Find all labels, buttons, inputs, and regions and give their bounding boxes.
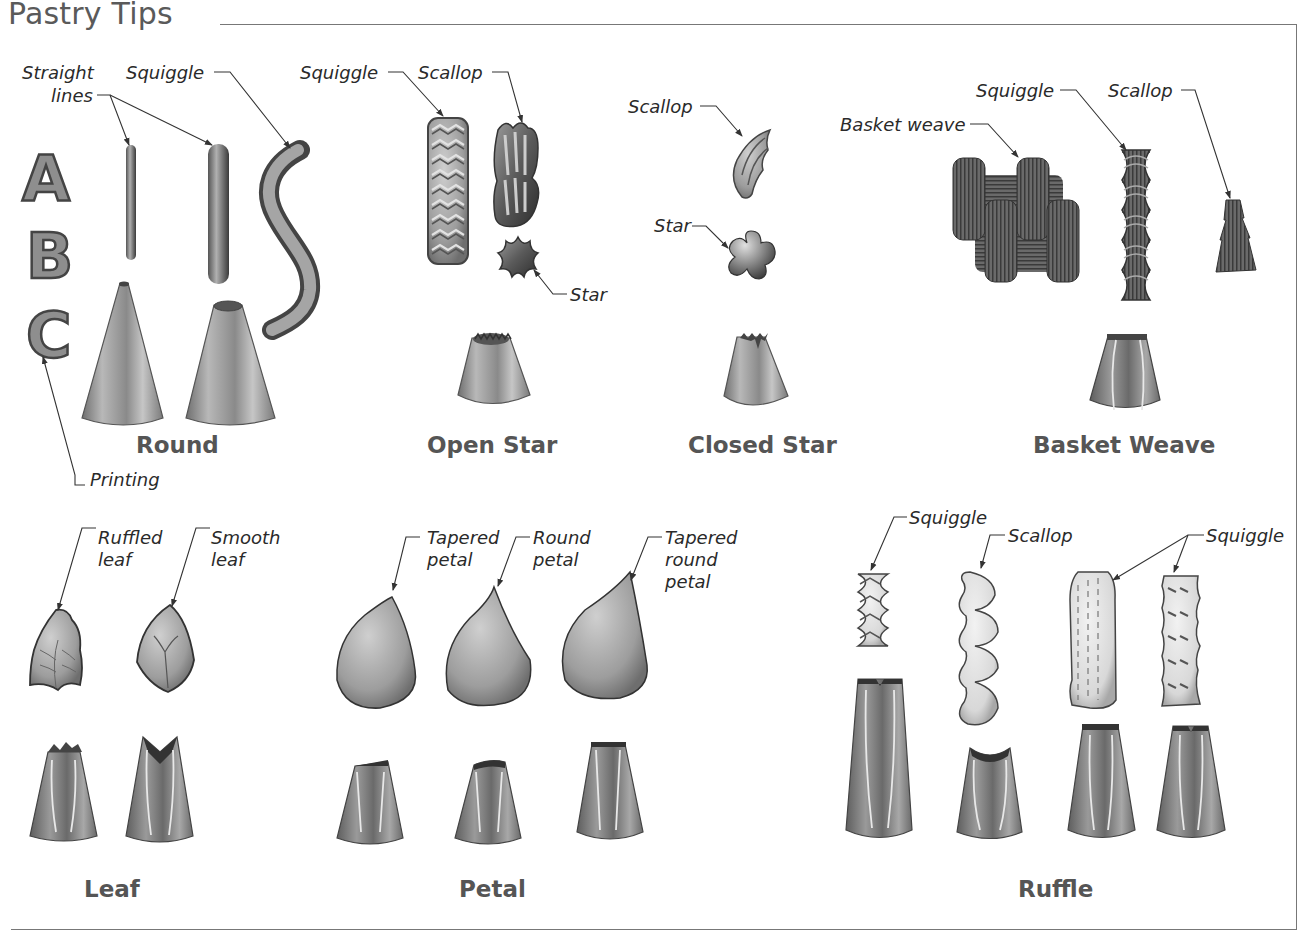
section-label-petal: Petal <box>459 876 526 902</box>
ruffle-squiggle-1 <box>858 574 888 646</box>
section-label-open-star: Open Star <box>427 432 557 458</box>
round-tip-large <box>186 305 275 425</box>
callout-smooth-leaf-1: Smooth <box>211 527 280 548</box>
petal-section <box>337 537 662 844</box>
thick-straight-line <box>208 144 229 284</box>
ruffle-squiggle-2 <box>1070 572 1116 708</box>
callout-basket-weave: Basket weave <box>840 114 966 135</box>
callout-tapered-petal-2: petal <box>427 549 473 570</box>
callout-basket-weave-squiggle: Squiggle <box>976 80 1054 101</box>
section-label-round: Round <box>136 432 219 458</box>
leaf-tip-ruffled <box>30 742 97 841</box>
open-star-tip <box>458 333 530 404</box>
thin-straight-line <box>126 145 136 260</box>
callout-tapered-petal-1: Tapered <box>427 527 500 548</box>
callout-ruffled-leaf-2: leaf <box>98 549 131 570</box>
closed-star-section <box>692 106 788 405</box>
basket-weave-tip <box>1090 334 1160 410</box>
leaf-section <box>30 528 210 842</box>
ruffle-section <box>846 517 1225 839</box>
petal-tip-tapered <box>337 760 403 844</box>
petal-tip-tapered-round <box>577 742 643 839</box>
callout-tapered-round-petal-1: Tapered <box>665 527 738 548</box>
petal-tip-round <box>455 761 521 844</box>
section-label-leaf: Leaf <box>84 876 140 902</box>
callout-open-star-squiggle: Squiggle <box>300 62 378 83</box>
pastry-tips-illustration: A B C <box>0 0 1302 939</box>
svg-text:A: A <box>22 142 70 215</box>
callout-printing: Printing <box>90 469 160 490</box>
ruffle-tip-3 <box>1068 724 1135 838</box>
callout-tapered-round-petal-3: petal <box>665 571 711 592</box>
ruffle-tip-4 <box>1157 726 1225 838</box>
closed-star-star <box>729 231 775 279</box>
callout-open-star-star: Star <box>570 284 607 305</box>
callout-tapered-round-petal-2: round <box>665 549 718 570</box>
closed-star-tip <box>724 333 788 405</box>
basket-weave-scallop <box>1216 200 1256 272</box>
callout-open-star-scallop: Scallop <box>418 62 483 83</box>
callout-round-petal-1: Round <box>533 527 591 548</box>
svg-text:C: C <box>26 299 72 372</box>
callout-round-squiggle: Squiggle <box>126 62 204 83</box>
svg-text:B: B <box>26 220 73 293</box>
open-star-scallop <box>494 123 539 227</box>
round-section: A B C <box>22 72 310 485</box>
section-label-closed-star: Closed Star <box>688 432 837 458</box>
open-star-star <box>498 237 538 277</box>
callout-closed-star-scallop: Scallop <box>628 96 693 117</box>
ruffle-tip-2 <box>957 748 1022 839</box>
callout-round-petal-2: petal <box>533 549 579 570</box>
open-star-section <box>388 72 567 404</box>
open-star-squiggle <box>428 118 468 264</box>
section-label-basket-weave: Basket Weave <box>1033 432 1215 458</box>
ruffle-scallop <box>959 572 998 725</box>
ruffle-tip-1 <box>846 679 912 838</box>
ruffle-squiggle-3 <box>1162 576 1200 706</box>
round-petal <box>446 587 530 706</box>
tapered-round-petal <box>563 572 648 699</box>
round-tip-small <box>82 283 163 425</box>
callout-ruffle-squiggle-1: Squiggle <box>909 507 987 528</box>
leaf-tip-smooth <box>126 737 193 842</box>
callout-closed-star-star: Star <box>654 215 691 236</box>
smooth-leaf <box>137 605 194 692</box>
callout-straight-lines-2: lines <box>51 85 93 106</box>
callout-ruffle-scallop: Scallop <box>1008 525 1073 546</box>
callout-straight-lines-1: Straight <box>22 62 94 83</box>
callout-ruffle-squiggle-2: Squiggle <box>1206 525 1284 546</box>
printing-letters: A B C <box>22 142 73 372</box>
callout-basket-weave-scallop: Scallop <box>1108 80 1173 101</box>
callout-ruffled-leaf-1: Ruffled <box>98 527 162 548</box>
basket-weave-section <box>953 90 1256 410</box>
basket-weave-sample <box>953 158 1079 282</box>
section-label-ruffle: Ruffle <box>1018 876 1093 902</box>
closed-star-scallop <box>733 130 770 198</box>
tapered-petal <box>337 597 416 708</box>
callout-smooth-leaf-2: leaf <box>211 549 244 570</box>
basket-weave-squiggle <box>1122 150 1150 300</box>
